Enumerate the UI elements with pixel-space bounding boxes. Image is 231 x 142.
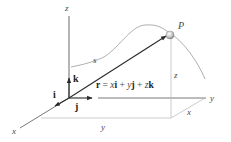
y-axis-label: y bbox=[209, 93, 214, 103]
x-axis-label: x bbox=[11, 126, 16, 136]
j-label: j bbox=[74, 101, 78, 112]
i-vector bbox=[55, 98, 69, 106]
dim-x-label: x bbox=[186, 107, 191, 117]
i-label: i bbox=[53, 89, 56, 100]
path-label: s bbox=[93, 55, 97, 65]
position-vector-diagram: z x y y z x s k j i r = xi + yj + zk P bbox=[0, 0, 231, 142]
r-equation: r = xi + yj + zk bbox=[96, 80, 155, 90]
path-curve bbox=[71, 25, 205, 79]
point-p-label: P bbox=[177, 20, 184, 31]
dim-z-label: z bbox=[173, 70, 178, 80]
dim-y-label: y bbox=[100, 122, 105, 132]
k-label: k bbox=[73, 73, 79, 84]
z-axis-label: z bbox=[64, 3, 69, 13]
point-p-marker bbox=[166, 31, 174, 39]
